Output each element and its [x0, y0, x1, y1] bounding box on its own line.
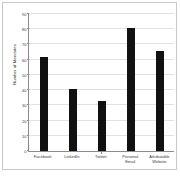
y-tick-label: 60	[22, 57, 26, 62]
y-tick-label: 10	[22, 133, 26, 138]
bar-slot	[116, 14, 145, 151]
y-axis-title: Number of Mandates	[12, 25, 17, 105]
x-axis-label-line: Email	[116, 159, 145, 164]
y-tick-label: 50	[22, 72, 26, 77]
x-axis-label-line: Website	[145, 159, 174, 164]
bar-slot	[87, 14, 116, 151]
bar-slot	[145, 14, 174, 151]
y-tick-label: 40	[22, 88, 26, 93]
x-axis-label-line: LinkedIn	[64, 154, 79, 159]
y-tick-label: 90	[22, 12, 26, 17]
x-axis-label-line: Twitter	[95, 154, 107, 159]
bar-series	[29, 14, 174, 151]
bar-slot	[58, 14, 87, 151]
y-tick-label: 70	[22, 42, 26, 47]
x-axis-label: PersonalEmail	[116, 152, 145, 164]
x-tick-mark	[101, 152, 102, 154]
x-axis-label: Facebook	[28, 152, 57, 164]
x-axis-label-line: Facebook	[34, 154, 52, 159]
x-axis-label: LinkedIn	[57, 152, 86, 164]
bar[interactable]	[156, 51, 164, 151]
bar[interactable]	[40, 57, 48, 151]
bar-slot	[29, 14, 58, 151]
y-tick-label: 0	[24, 149, 26, 154]
x-axis-labels: FacebookLinkedInTwitterPersonalEmailAttr…	[28, 152, 174, 164]
y-tick-label: 20	[22, 118, 26, 123]
y-tick-label: 30	[22, 103, 26, 108]
plot-area: 0102030405060708090	[28, 14, 174, 152]
bar-chart-figure: Number of Mandates 0102030405060708090 F…	[0, 0, 180, 179]
y-tick-label: 80	[22, 27, 26, 32]
bar[interactable]	[98, 101, 106, 151]
bar[interactable]	[127, 28, 135, 151]
bar[interactable]	[69, 89, 77, 151]
x-axis-label: AttributableWebsite	[145, 152, 174, 164]
